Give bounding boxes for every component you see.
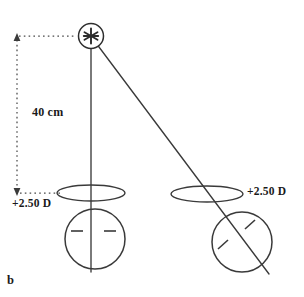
right-eye-group: [212, 212, 272, 272]
right-eye-axis-tick-upper-right: [245, 220, 255, 229]
dimension-arrowhead-down-icon: [14, 188, 21, 196]
left-eye-group: [65, 209, 125, 269]
optics-diagram-canvas: [0, 0, 304, 297]
distance-label: 40 cm: [32, 106, 63, 118]
right-eye-axis-tick-lower-left: [218, 240, 228, 249]
ray-to-right-eye: [93, 39, 269, 274]
left-eye-circle: [65, 209, 125, 269]
point-source-group: [79, 24, 104, 49]
panel-label: b: [7, 274, 14, 287]
left-lens-power-label: +2.50 D: [12, 198, 51, 210]
right-lens-ellipse: [171, 186, 243, 202]
right-lens-power-label: +2.50 D: [247, 186, 286, 198]
right-eye-circle: [212, 212, 272, 272]
dimension-arrowhead-up-icon: [14, 33, 21, 41]
optics-figure-panel-b: 40 cm +2.50 D +2.50 D b: [0, 0, 304, 297]
ray-group: [91, 36, 269, 274]
